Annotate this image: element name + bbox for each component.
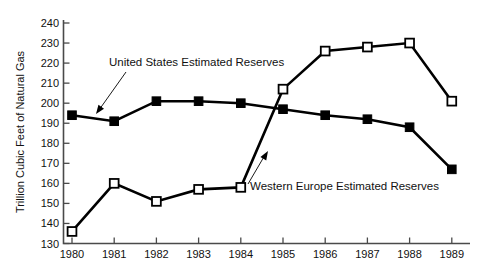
x-tick-label: 1985 — [271, 248, 295, 260]
chart-canvas: 240230220210200190180170160150140130 198… — [0, 0, 487, 269]
x-tick-label: 1983 — [186, 248, 210, 260]
x-tick-label: 1987 — [355, 248, 379, 260]
data-point-marker — [110, 117, 119, 126]
series-line — [72, 43, 452, 231]
annotation-leader-line — [99, 72, 126, 110]
data-series — [68, 39, 457, 236]
data-point-marker — [321, 111, 330, 120]
annotation-arrow-icon — [260, 151, 268, 160]
data-point-marker — [321, 47, 330, 56]
x-tick-label: 1981 — [102, 248, 126, 260]
y-tick-label: 190 — [41, 117, 59, 129]
annotation-label: Western Europe Estimated Reserves — [250, 180, 439, 192]
data-point-marker — [447, 97, 456, 106]
y-axis-title: Trillion Cubic Feet of Natural Gas — [14, 50, 26, 213]
x-axis: 1980198119821983198419851986198719881989 — [60, 238, 464, 261]
data-point-marker — [363, 43, 372, 52]
data-point-marker — [236, 183, 245, 192]
y-tick-label: 170 — [41, 157, 59, 169]
y-tick-label: 200 — [41, 97, 59, 109]
series-annotation: Western Europe Estimated Reserves — [248, 151, 439, 192]
data-point-marker — [68, 227, 77, 236]
x-tick-label: 1988 — [397, 248, 421, 260]
data-point-marker — [279, 85, 288, 94]
annotation-arrow-icon — [96, 105, 104, 114]
y-tick-label: 150 — [41, 197, 59, 209]
data-point-marker — [152, 197, 161, 206]
data-point-marker — [68, 111, 77, 120]
data-point-marker — [194, 97, 203, 106]
y-tick-label: 130 — [41, 238, 59, 250]
line-chart: 240230220210200190180170160150140130 198… — [0, 0, 487, 269]
y-tick-label: 230 — [41, 37, 59, 49]
y-axis: 240230220210200190180170160150140130 — [41, 17, 70, 250]
data-point-marker — [405, 123, 414, 132]
y-tick-label: 140 — [41, 217, 59, 229]
y-tick-label: 220 — [41, 57, 59, 69]
data-point-marker — [237, 99, 246, 108]
y-tick-label: 240 — [41, 17, 59, 29]
x-tick-label: 1989 — [440, 248, 464, 260]
y-tick-label: 210 — [41, 77, 59, 89]
x-tick-label: 1986 — [313, 248, 337, 260]
x-tick-label: 1984 — [229, 248, 253, 260]
y-tick-label: 160 — [41, 177, 59, 189]
data-point-marker — [194, 185, 203, 194]
data-point-marker — [448, 165, 457, 174]
data-point-marker — [110, 179, 119, 188]
x-tick-label: 1982 — [144, 248, 168, 260]
data-point-marker — [279, 105, 288, 114]
y-tick-label: 180 — [41, 137, 59, 149]
data-series-group — [68, 39, 457, 236]
annotation-label: United States Estimated Reserves — [109, 56, 284, 68]
x-tick-label: 1980 — [60, 248, 84, 260]
data-point-marker — [363, 115, 372, 124]
data-point-marker — [152, 97, 161, 106]
data-point-marker — [405, 39, 414, 48]
